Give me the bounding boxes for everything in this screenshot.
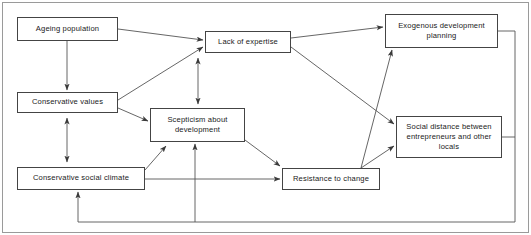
node-lack-of-expertise[interactable]: Lack of expertise	[205, 31, 291, 53]
edge-climate-to-scepticism	[145, 146, 166, 170]
node-label: Scepticism about development	[154, 115, 241, 136]
edge-scepticism-to-resistance	[245, 140, 280, 166]
node-label: Conservative social climate	[21, 173, 141, 183]
node-resistance-to-change[interactable]: Resistance to change	[282, 168, 380, 190]
edge-ageing-to-lack	[118, 29, 203, 40]
diagram-canvas: Ageing population Conservative values Co…	[0, 0, 531, 235]
node-label: Lack of expertise	[209, 37, 287, 47]
node-conservative-social-climate[interactable]: Conservative social climate	[17, 167, 145, 190]
node-exogenous-development-planning[interactable]: Exogenous development planning	[385, 14, 498, 48]
edge-lack-to-exogenous	[291, 27, 383, 38]
node-conservative-values[interactable]: Conservative values	[17, 92, 118, 113]
node-label: Conservative values	[21, 97, 114, 107]
node-label: Ageing population	[21, 24, 114, 34]
node-label: Exogenous development planning	[389, 21, 494, 42]
node-scepticism-about-development[interactable]: Scepticism about development	[150, 108, 245, 142]
node-label: Resistance to change	[286, 174, 376, 184]
edge-lack-to-social-distance	[291, 47, 394, 124]
edge-values-to-lack	[118, 47, 203, 100]
node-social-distance[interactable]: Social distance between entrepreneurs an…	[396, 116, 502, 158]
edge-values-to-scepticism	[118, 108, 148, 121]
node-ageing-population[interactable]: Ageing population	[17, 17, 118, 41]
node-label: Social distance between entrepreneurs an…	[400, 122, 498, 153]
